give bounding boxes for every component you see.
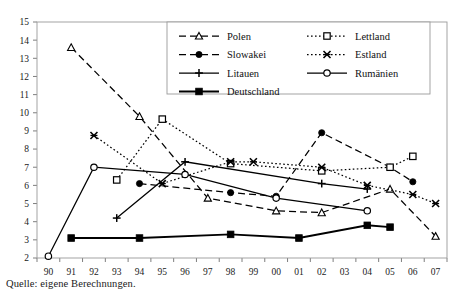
x-tick-label: 98 (226, 267, 236, 277)
legend-label: Slowakei (227, 49, 266, 60)
data-point-marker (68, 235, 75, 242)
legend-label: Lettland (355, 31, 391, 42)
x-tick-label: 99 (249, 267, 259, 277)
data-point-marker (228, 190, 234, 196)
x-tick-label: 05 (385, 267, 395, 277)
legend-label: Deutschland (227, 86, 280, 97)
data-point-marker (136, 235, 143, 242)
data-point-marker (136, 180, 142, 186)
y-tick-label: 9 (24, 126, 29, 136)
y-tick-label: 15 (20, 17, 30, 27)
data-point-marker (296, 235, 303, 242)
legend-label: Polen (227, 31, 252, 42)
data-point-marker (91, 164, 97, 170)
x-tick-label: 95 (158, 267, 168, 277)
y-tick-label: 3 (24, 235, 29, 245)
x-tick-label: 06 (408, 267, 418, 277)
y-tick-label: 4 (24, 217, 29, 227)
y-tick-label: 10 (20, 108, 30, 118)
y-tick-label: 13 (20, 54, 30, 64)
x-tick-label: 93 (112, 267, 122, 277)
y-tick-label: 14 (20, 36, 30, 46)
figure-source-caption: Quelle: eigene Berechnungen. (6, 278, 136, 289)
data-point-marker (319, 130, 325, 136)
series-deutschland (68, 222, 393, 241)
legend-label: Estland (355, 49, 387, 60)
data-point-marker (324, 33, 330, 39)
data-point-marker (45, 253, 51, 259)
data-point-marker (182, 171, 188, 177)
data-point-marker (324, 70, 330, 76)
data-point-marker (410, 153, 416, 159)
y-tick-label: 7 (24, 163, 29, 173)
legend-label: Rumänien (355, 68, 399, 79)
x-tick-label: 01 (294, 267, 304, 277)
y-tick-label: 5 (24, 199, 29, 209)
x-tick-label: 91 (66, 267, 76, 277)
y-tick-label: 12 (20, 72, 30, 82)
data-point-marker (387, 164, 393, 170)
y-tick-label: 2 (24, 253, 29, 263)
x-tick-label: 92 (89, 267, 99, 277)
line-chart: 23456789101112131415 9091929394959697989… (0, 0, 463, 301)
data-point-marker (227, 231, 234, 238)
y-tick-label: 11 (20, 90, 29, 100)
series-lettland (114, 116, 417, 183)
series-litauen (113, 158, 371, 222)
x-tick-label: 00 (271, 267, 281, 277)
legend-box (167, 22, 430, 94)
data-point-marker (196, 88, 203, 95)
x-tick-label: 02 (317, 267, 327, 277)
x-tick-label: 04 (363, 267, 373, 277)
y-axis-tick-labels: 23456789101112131415 (20, 17, 30, 263)
data-point-marker (68, 44, 75, 51)
y-tick-label: 8 (24, 144, 29, 154)
x-tick-label: 94 (135, 267, 145, 277)
x-tick-label: 03 (340, 267, 350, 277)
x-tick-label: 96 (180, 267, 190, 277)
data-point-marker (159, 116, 165, 122)
data-point-marker (364, 208, 370, 214)
data-point-marker (196, 51, 202, 57)
y-tick-label: 6 (24, 181, 29, 191)
series-slowakei (136, 130, 416, 200)
x-tick-label: 97 (203, 267, 213, 277)
data-point-marker (114, 177, 120, 183)
figure-container: 23456789101112131415 9091929394959697989… (0, 0, 463, 301)
x-axis-tick-labels: 909192939495969798990001020304050607 (44, 267, 441, 277)
x-axis-ticks (37, 258, 447, 262)
data-point-marker (410, 179, 416, 185)
x-tick-label: 90 (44, 267, 54, 277)
data-point-marker (364, 222, 371, 229)
y-axis-ticks (33, 22, 37, 258)
chart-legend: PolenLettlandSlowakeiEstlandLitauenRumän… (167, 22, 430, 97)
data-point-marker (387, 224, 394, 231)
data-point-marker (386, 185, 393, 192)
data-point-marker (273, 195, 279, 201)
legend-label: Litauen (227, 68, 260, 79)
x-tick-label: 07 (431, 267, 441, 277)
